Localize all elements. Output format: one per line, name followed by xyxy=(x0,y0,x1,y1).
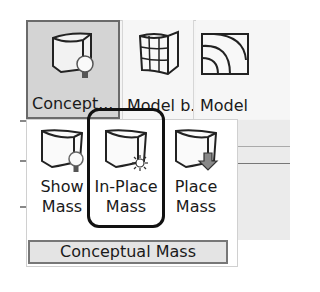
model-by-face-ribbon-button[interactable]: Model b... xyxy=(122,20,194,119)
show-mass-icon xyxy=(38,125,86,177)
divider xyxy=(238,146,290,147)
divider xyxy=(238,163,290,164)
button-label-line1: Place xyxy=(168,177,224,197)
conceptual-mass-ribbon-button[interactable]: Concept... xyxy=(26,20,120,119)
button-label-line2: Mass xyxy=(34,197,90,217)
button-label-line1: Show xyxy=(34,177,90,197)
place-mass-icon xyxy=(172,125,220,177)
show-mass-button[interactable]: Show Mass xyxy=(34,125,90,225)
panel-title[interactable]: Conceptual Mass xyxy=(28,240,228,264)
place-mass-button[interactable]: Place Mass xyxy=(168,125,224,225)
button-label-line2: Mass xyxy=(168,197,224,217)
model-by-face-icon xyxy=(132,26,184,86)
model-line-icon xyxy=(200,26,252,86)
highlight-callout xyxy=(87,108,165,228)
conceptual-mass-icon xyxy=(47,28,99,88)
background-panel xyxy=(238,120,290,240)
model-line-ribbon-button[interactable]: Model xyxy=(196,20,290,119)
ribbon-button-label: Model xyxy=(196,96,290,115)
